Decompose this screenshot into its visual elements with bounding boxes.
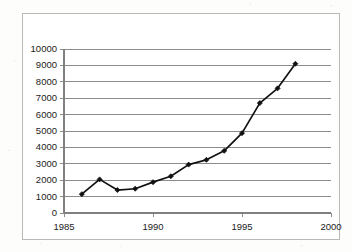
data-point-marker [133,186,138,191]
y-axis-group [60,49,64,213]
x-tick-label: 1985 [44,222,84,232]
x-tick-label: 2000 [311,222,351,232]
y-tick-label: 8000 [23,77,57,87]
y-tick-label: 9000 [23,60,57,70]
chart-page: 0100020003000400050006000700080009000100… [0,0,352,252]
y-tick-label: 4000 [23,142,57,152]
y-tick-label: 1000 [23,192,57,202]
chart-frame: 0100020003000400050006000700080009000100… [22,13,340,240]
line-chart-plot [23,14,341,241]
y-tick-label: 2000 [23,175,57,185]
y-tick-label: 6000 [23,110,57,120]
y-tick-label: 7000 [23,93,57,103]
y-tick-label: 0 [23,208,57,218]
x-axis-group [64,213,331,217]
x-tick-label: 1995 [222,222,262,232]
y-tick-label: 3000 [23,159,57,169]
y-tick-label: 5000 [23,126,57,136]
series-line [82,64,296,194]
y-tick-label: 10000 [23,44,57,54]
x-tick-label: 1990 [133,222,173,232]
data-series-group [82,64,296,194]
